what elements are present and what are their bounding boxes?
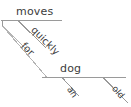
- word-dog: dog: [60, 63, 81, 74]
- sentence-diagram: moves quickly for dog an old: [0, 0, 131, 107]
- word-moves: moves: [16, 6, 53, 17]
